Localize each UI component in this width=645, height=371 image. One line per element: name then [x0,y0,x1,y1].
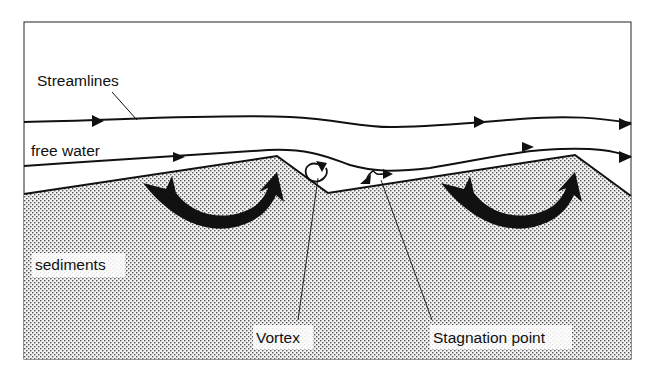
stagnation-label-group: Stagnation point [430,325,572,349]
vortex-label: Vortex [256,329,300,346]
vortex-label-group: Vortex [253,325,313,349]
stagnation-point-label: Stagnation point [433,329,546,346]
sediments-label-group: sediments [32,253,125,277]
sediments-label: sediments [35,256,106,273]
streamlines-label: Streamlines [37,72,119,89]
free-water-label: free water [31,142,100,159]
sediment-flow-diagram: Streamlines free water sediments Vortex … [0,0,645,371]
